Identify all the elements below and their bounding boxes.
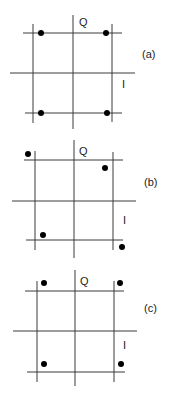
panel-caption: (a) bbox=[142, 48, 155, 60]
q-axis-label: Q bbox=[79, 16, 88, 28]
panel-caption: (b) bbox=[144, 176, 157, 188]
i-axis-label: I bbox=[122, 78, 125, 90]
constellation-point bbox=[104, 110, 110, 116]
i-axis-label: I bbox=[123, 339, 126, 351]
constellation-diagram: Q I (a) Q I (b) Q I (c) bbox=[0, 0, 172, 401]
q-axis-label: Q bbox=[80, 275, 89, 287]
constellation-point bbox=[103, 30, 109, 36]
constellation-point bbox=[38, 110, 44, 116]
constellation-point bbox=[119, 244, 125, 250]
constellation-point bbox=[40, 232, 46, 238]
constellation-point bbox=[102, 165, 108, 171]
i-axis-label: I bbox=[123, 214, 126, 226]
q-axis-label: Q bbox=[79, 145, 88, 157]
constellation-point bbox=[41, 361, 47, 367]
constellation-point bbox=[38, 30, 44, 36]
constellation-point bbox=[41, 280, 47, 286]
constellation-point bbox=[117, 280, 123, 286]
constellation-point bbox=[118, 361, 124, 367]
panel-a: Q I (a) bbox=[10, 15, 155, 129]
panel-b: Q I (b) bbox=[12, 140, 157, 258]
panel-c: Q I (c) bbox=[13, 270, 157, 386]
panel-caption: (c) bbox=[144, 302, 157, 314]
constellation-point bbox=[25, 151, 31, 157]
